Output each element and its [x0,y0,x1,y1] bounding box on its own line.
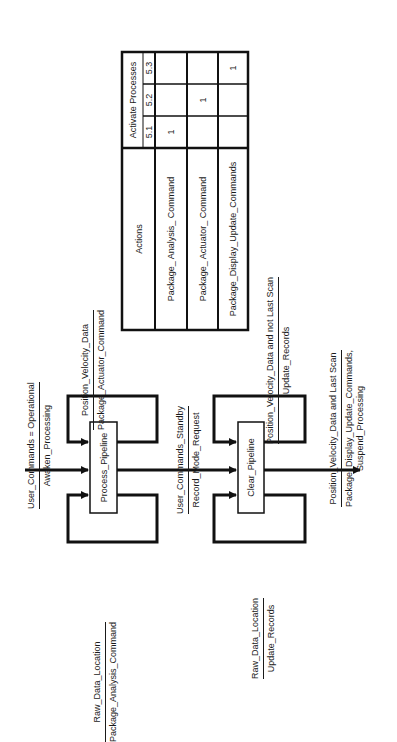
transition-to-clear-label: User_Commands_Standby Record_Mode_Reques… [175,406,202,514]
divider [39,382,40,509]
condition-text: Raw_Data_Location [92,641,103,722]
action-text: Package_Display_Update_Commands, [344,349,355,506]
table-group-header: Activate Processes [122,52,143,148]
transition-exit-label: Position_Velocity_Data and Last Scan Pac… [328,349,366,506]
condition-text: Position_Velocity_Data and not Last Scan [265,276,276,443]
state-clear-pipeline: Clear_Pipeline [238,422,264,513]
transition-clear-upper-label: Position_Velocity_Data and not Last Scan… [265,276,292,443]
action-text: Package_Actuator_Command [96,310,107,430]
condition-text: Position_Velocity_Data and Last Scan [328,352,339,504]
action-text: Package_ Analysis_ Command [166,177,176,302]
table-row-action: Package_Display_Update_Commands [218,148,248,330]
table-header-5-1: 5.1 [143,116,155,148]
header-text: 5.2 [144,94,154,107]
table-row-action: Package_ Analysis_ Command [155,148,187,330]
header-text: Actions [134,224,144,254]
table-actions-header: Actions [122,148,155,330]
transition-entry-label: User_Commands = Operational Awaken_Proce… [26,382,53,509]
divider [188,406,189,514]
condition-text: Raw_Data_Location [250,597,261,678]
action-text: Package_Analysis_Command [108,622,119,742]
action-text: Package_Display_Update_Commands [228,162,238,317]
cell-text: 1 [228,66,238,71]
table-row-action: Package_ Actuator_ Command [187,148,218,330]
state-label: Process_Pipeline [99,433,109,503]
action-text: Update_Records [266,604,277,672]
condition-text: User_Commands = Operational [26,382,37,509]
header-text: 5.1 [144,126,154,139]
condition-text: User_Commands_Standby [175,406,186,514]
divider [105,622,106,742]
cell-text: 1 [166,130,176,135]
transition-process-lower-label: Raw_Data_Location Package_Analysis_Comma… [92,622,119,742]
divider [263,597,264,678]
action-text: Update_Records [281,326,292,394]
state-label: Clear_Pipeline [246,438,256,497]
action-text: Record_Mode_Request [191,412,202,507]
table-cell-value: 1 [155,116,187,148]
action-text: Package_ Actuator_ Command [198,177,208,302]
action-text: Awaken_Processing [42,404,53,485]
header-text: Activate Processes [128,62,138,139]
table-header-5-2: 5.2 [143,84,155,116]
state-process-pipeline: Process_Pipeline [90,422,117,513]
table-cell-value: 1 [218,52,248,84]
divider [341,349,342,506]
cell-text: 1 [198,98,208,103]
transition-clear-lower-label: Raw_Data_Location Update_Records [250,597,277,678]
divider [278,276,279,443]
transition-process-upper-label: Position_Velocity_Data Package_Actuator_… [80,310,107,430]
condition-text: Position_Velocity_Data [80,324,91,416]
table-header-5-3: 5.3 [143,52,155,84]
header-text: 5.3 [144,62,154,75]
table-cell-value: 1 [187,84,218,116]
action-text-2: Suspend_Processing [355,385,366,470]
divider [93,310,94,430]
